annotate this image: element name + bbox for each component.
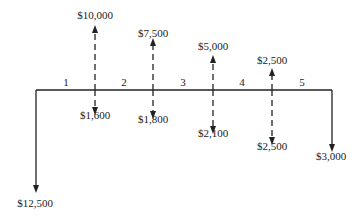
outflow-label-3: $2,100 — [198, 128, 228, 139]
arrowhead-icon — [269, 68, 275, 76]
arrowhead-icon — [92, 25, 98, 33]
cash-flow-diagram — [0, 0, 363, 218]
inflow-label-4: $2,500 — [257, 55, 287, 66]
outflow-label-1: $1,600 — [80, 110, 110, 121]
inflow-label-2: $7,500 — [138, 28, 168, 39]
inflow-label-3: $5,000 — [198, 41, 228, 52]
period-label-2: 2 — [121, 77, 127, 88]
outflow-label-2: $1,800 — [138, 114, 168, 125]
arrowhead-icon — [33, 185, 39, 193]
period-label-4: 4 — [239, 77, 245, 88]
period-label-1: 1 — [63, 77, 69, 88]
final-outflow-label: $3,000 — [316, 151, 346, 162]
period-label-3: 3 — [180, 77, 186, 88]
initial-outflow-label: $12,500 — [17, 198, 53, 209]
arrowhead-icon — [210, 55, 216, 63]
period-label-5: 5 — [299, 77, 305, 88]
inflow-label-1: $10,000 — [77, 10, 113, 21]
arrowhead-icon — [150, 38, 156, 46]
outflow-label-4: $2,500 — [257, 141, 287, 152]
